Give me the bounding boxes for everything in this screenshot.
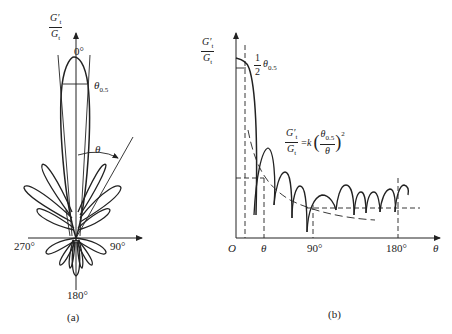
angle-270-label: 270°: [14, 241, 35, 252]
caption-b: (b): [328, 308, 341, 320]
beamwidth-label: θ0.5: [94, 80, 108, 94]
angle-90-label: 90°: [110, 241, 125, 252]
diagram-canvas: [0, 0, 452, 334]
origin-label: O: [228, 243, 236, 254]
angle-180-label: 180°: [67, 290, 88, 301]
caption-a: (a): [67, 311, 79, 323]
angle-0-label: 0°: [74, 46, 84, 57]
x-tick-180: 180°: [386, 243, 407, 254]
main-lobe-curve: [236, 58, 257, 215]
theta-label: θ: [95, 144, 100, 155]
envelope-formula: G′t Gt =k ( θ0.5 θ ) 2: [285, 128, 345, 158]
x-tick-theta: θ: [261, 243, 266, 254]
x-axis-label: θ: [433, 243, 438, 254]
polar-gain-label: G′t Gt: [49, 13, 62, 43]
x-tick-90: 90°: [307, 243, 322, 254]
half-beam-label: 1 2 θ0.5: [254, 53, 277, 77]
rect-gain-label: G′t Gt: [201, 37, 214, 67]
